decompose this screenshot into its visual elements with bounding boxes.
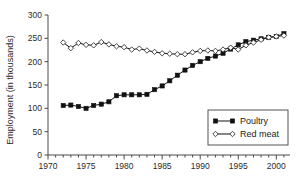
plot-area <box>61 32 287 111</box>
data-point <box>152 88 156 92</box>
y-tick-label: 150 <box>28 80 42 90</box>
data-point <box>183 68 187 72</box>
chart-canvas: 050100150200250300 197019751980198519901… <box>0 0 301 185</box>
data-point <box>198 48 203 53</box>
y-tick-label: 300 <box>28 10 42 20</box>
data-point <box>114 94 118 98</box>
data-point <box>182 52 187 57</box>
data-point <box>121 45 126 50</box>
employment-line-chart: 050100150200250300 197019751980198519901… <box>0 0 301 185</box>
legend-label: Poultry <box>240 116 269 126</box>
data-point <box>114 44 119 49</box>
data-point <box>122 93 126 97</box>
data-point <box>130 93 134 97</box>
data-point <box>152 49 157 54</box>
y-tick-label: 250 <box>28 33 42 43</box>
data-point <box>190 63 194 67</box>
legend-label: Red meat <box>240 129 280 139</box>
data-point <box>190 50 195 55</box>
data-point <box>145 92 149 96</box>
data-point <box>160 84 164 88</box>
data-point <box>99 39 104 44</box>
data-point <box>69 103 73 107</box>
data-point <box>167 51 172 56</box>
data-point <box>137 46 142 51</box>
legend-marker <box>230 119 234 123</box>
y-tick-label: 200 <box>28 57 42 67</box>
data-point <box>76 40 81 45</box>
data-point <box>129 47 134 52</box>
x-tick-label: 1975 <box>77 161 96 171</box>
x-tick-label: 1980 <box>115 161 134 171</box>
data-point <box>175 73 179 77</box>
chart-legend: PoultryRed meat <box>208 110 288 145</box>
data-point <box>137 93 141 97</box>
x-tick-label: 1995 <box>229 161 248 171</box>
x-axis: 1970197519801985199019952000 <box>39 155 290 171</box>
data-point <box>92 103 96 107</box>
data-point <box>61 103 65 107</box>
data-point <box>76 104 80 108</box>
data-point <box>213 54 217 58</box>
x-tick-label: 1985 <box>153 161 172 171</box>
data-point <box>168 79 172 83</box>
data-point <box>144 48 149 53</box>
data-point <box>206 56 210 60</box>
data-point <box>91 43 96 48</box>
data-point <box>236 47 241 52</box>
x-tick-label: 1970 <box>39 161 58 171</box>
y-tick-label: 50 <box>33 127 43 137</box>
data-point <box>107 100 111 104</box>
y-tick-label: 0 <box>37 150 42 160</box>
data-point <box>106 42 111 47</box>
data-point <box>205 48 210 53</box>
data-point <box>99 102 103 106</box>
legend-marker <box>213 119 217 123</box>
y-tick-label: 100 <box>28 103 42 113</box>
data-point <box>159 51 164 56</box>
data-point <box>84 106 88 110</box>
y-axis-title: Employment (in thousands) <box>5 35 15 145</box>
data-point <box>213 48 218 53</box>
y-axis: 050100150200250300 <box>28 10 48 160</box>
series-red-meat <box>61 33 287 57</box>
data-point <box>83 42 88 47</box>
x-tick-label: 1990 <box>191 161 210 171</box>
x-tick-label: 2000 <box>267 161 286 171</box>
data-point <box>175 52 180 57</box>
data-point <box>198 60 202 64</box>
